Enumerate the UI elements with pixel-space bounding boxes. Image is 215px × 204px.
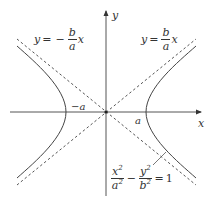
equation-term2: y2 b2 (139, 166, 152, 191)
right-vertex-label: a (135, 116, 141, 126)
asymptote-neg-var: x (78, 34, 84, 45)
asymptote-pos-num: b (161, 27, 170, 40)
asymptote-neg-sign: − (55, 34, 64, 45)
asymptote-neg-num: b (68, 27, 77, 40)
asymptote-positive-label: y = b a x (141, 27, 178, 52)
asymptote-pos-den: a (163, 40, 170, 52)
term1-num-exp: 2 (118, 164, 122, 172)
term1-den-exp: 2 (118, 178, 122, 186)
origin-point (104, 110, 107, 113)
x-axis-label: x (198, 118, 204, 129)
hyperbola-equation: x2 a2 − y2 b2 = 1 (110, 166, 173, 191)
asymptote-pos-equals: = (149, 34, 158, 45)
term2-den-exp: 2 (147, 178, 151, 186)
equation-rhs: 1 (166, 173, 173, 184)
term2-num-exp: 2 (146, 164, 150, 172)
asymptote-neg-equals: = (42, 34, 51, 45)
equation-equals: = (155, 173, 164, 184)
diagram-graphics (0, 0, 215, 204)
hyperbola-diagram: y x −a a y = − b a x y = b a x x2 a2 − y… (0, 0, 215, 204)
asymptote-neg-den: a (69, 40, 76, 52)
asymptote-pos-var: x (171, 34, 177, 45)
asymptote-pos-fraction: b a (161, 27, 170, 52)
asymptote-neg-fraction: b a (68, 27, 77, 52)
equation-pointer (153, 152, 166, 165)
asymptote-pos-lhs: y (141, 34, 147, 45)
asymptote-neg-lhs: y (34, 34, 40, 45)
asymptote-negative-label: y = − b a x (34, 27, 84, 52)
y-axis-label: y (112, 10, 118, 21)
equation-term1: x2 a2 (111, 166, 124, 191)
left-vertex-label: −a (71, 102, 85, 112)
term2-den: b (139, 179, 146, 192)
equation-minus: − (127, 173, 136, 184)
